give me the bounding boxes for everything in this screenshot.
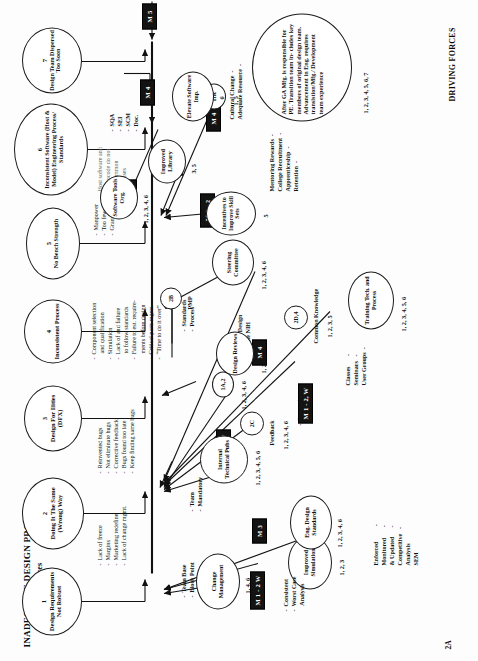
node-label: Training Tech. and Process: [364, 272, 377, 328]
driving-nums-training: 1, 2, 3, 4, 5, 6: [400, 296, 407, 331]
driving-node-eng-design-standards[interactable]: Eng. Design Standards: [290, 495, 332, 549]
node-label: Steering Committee: [226, 240, 239, 284]
annotation-sqa-sei-scm-doc: - SQA - SEI - SCM - Doc.: [108, 112, 140, 131]
annotation-team-base: - Team Base - Block Point: [180, 562, 196, 597]
driving-nums-design-reviews: 1, 2, 3, 6: [260, 351, 267, 373]
driving-node-change-management[interactable]: Change Management: [196, 553, 240, 609]
node-number: 4: [46, 329, 53, 332]
driving-bullets-hr: Mentoring Rewards - College Recruitment …: [268, 132, 300, 191]
driving-nums-elevate-software: 6: [218, 96, 225, 99]
node-label: Inconsistent Software (Host & Model) Eng…: [44, 104, 64, 194]
rotated-canvas: 2A INADEQUATE DESIGN PROCESS Restraining…: [0, 0, 478, 661]
node-label: Doing It The Same (Wrong) Way: [49, 478, 64, 548]
restraining-node-4[interactable]: 4 Inconsistent Process: [24, 299, 82, 363]
driving-bullets-ga-mfg-transition: Cultural Change - Adequate Resource -: [228, 63, 244, 119]
driving-node-incentives[interactable]: Incentives to Improve Skill Sets: [206, 191, 256, 235]
node-number: 7: [42, 58, 49, 61]
m-box-m5[interactable]: M 5: [142, 3, 157, 29]
m-box-m1-2w-b[interactable]: M 1 - 2, W: [298, 383, 313, 423]
driving-node-steering-committee[interactable]: Steering Committee: [212, 239, 254, 285]
node-label: 1A,2: [220, 378, 227, 390]
restraining-node-5[interactable]: 5 No Bench Strength: [26, 207, 80, 279]
node-label: 2C: [249, 419, 256, 426]
node-number: 2: [42, 511, 49, 514]
driving-bullets-2c: Feedback: [268, 420, 276, 445]
driving-bullets-2d4: Common Knowledge: [312, 288, 320, 343]
driving-bullets-2b: PMP: [186, 296, 194, 309]
driving-node-improved-library[interactable]: Improved Library: [148, 139, 186, 183]
driving-node-training[interactable]: Training Tech. and Process: [348, 271, 394, 329]
restraining-node-3[interactable]: 3 Design For Ilities (DFX): [24, 385, 82, 451]
restraining-node-2[interactable]: 2 Doing It The Same (Wrong) Way: [22, 477, 84, 549]
driving-node-design-reviews[interactable]: Design Reviews: [216, 331, 254, 375]
diagram-page: 2A INADEQUATE DESIGN PROCESS Restraining…: [0, 0, 478, 661]
node-label: Software Tools Org.: [112, 176, 125, 218]
node-number: 6: [37, 147, 44, 150]
driving-nums-eng-design-standards: 1, 2, 3, 4, 6: [336, 519, 343, 547]
node-label: Design For Ilities (DFX): [49, 386, 64, 450]
restraining-bullets-4: - Component selection and qualification …: [90, 300, 163, 359]
node-number: 3: [42, 416, 49, 419]
node-label: After GA Mfg. is responsible for PE. Tra…: [280, 14, 324, 120]
annotation-team-mandatory: - Team - Mandatory: [188, 476, 204, 511]
driving-bullets-eng-design-standards: Enforced - Monitored - & Updated - Compe…: [372, 524, 421, 565]
restraining-bullets-1: - Lack of freeze - Margins - Marketing r…: [96, 505, 128, 565]
node-label: 2B: [168, 295, 175, 302]
driving-nums-improved-library: 3, 5: [190, 164, 197, 173]
driving-nums-incentives: 5: [262, 214, 269, 217]
restraining-node-7[interactable]: 7 Design Team Dispersed Too Soon: [22, 27, 82, 93]
m-box-m4-d[interactable]: M 4: [140, 79, 155, 105]
node-label: Design Reviews: [232, 333, 239, 373]
node-label: Change Management: [211, 554, 224, 608]
node-label: Design Requirements Not Robust: [48, 568, 63, 634]
driving-node-software-tools-org[interactable]: Software Tools Org.: [100, 175, 138, 219]
driving-nums-software-tools-org: 1, 2, 3, 4, 6: [142, 195, 149, 223]
m-box-m3-b[interactable]: M 3: [252, 518, 267, 543]
m-box-m1-2w-a[interactable]: M 1 - 2 W: [250, 571, 265, 609]
driving-nums-improved-simulation: 1, 2, 3: [338, 559, 345, 575]
driving-nums-1a2: 1, 2, 3, 4, 6: [240, 381, 247, 409]
node-label: Elevate Software Imp.: [186, 72, 199, 120]
driving-nums-steering-committee: 1, 2, 3, 4, 6: [260, 261, 267, 289]
node-number: 5: [46, 241, 53, 244]
node-label: Eng. Design Standards: [304, 496, 317, 548]
driving-node-2d4[interactable]: 2D,4: [284, 305, 308, 329]
node-number: 1: [41, 599, 48, 602]
page-tag: 2A: [444, 640, 453, 649]
driving-nums-change-management: 1, 4, 6: [244, 577, 251, 593]
driving-nums-ga-mfg-transition: 1, 2, 3, 4, 5, 6, 7: [362, 72, 369, 113]
node-label: Incentives to Improve Skill Sets: [221, 192, 241, 234]
driving-node-ga-mfg-transition[interactable]: After GA Mfg. is responsible for PE. Tra…: [252, 13, 352, 121]
node-label: Internal Technical Pubs: [217, 436, 230, 482]
driving-node-internal-technical-pubs[interactable]: Internal Technical Pubs: [200, 435, 248, 483]
restraining-node-6[interactable]: 6 Inconsistent Software (Host & Model) E…: [14, 103, 88, 195]
driving-nums-internal-technical-pubs: 1, 2, 3, 4, 5, 6: [254, 450, 261, 485]
restraining-bullets-2: - Reinvented bugs - Not eliminate bugs -…: [96, 409, 136, 473]
node-label: Inconsistent Process: [53, 303, 60, 359]
driving-bullets-improved-simulation: - Consistent - Worst Case Analysis: [282, 576, 306, 611]
driving-nums-2c: 1, 2, 3, 4, 6: [282, 421, 289, 449]
node-label: 2D,4: [293, 311, 300, 323]
node-label: Improved Library: [160, 140, 173, 182]
driving-node-2b[interactable]: 2B: [160, 287, 182, 309]
restraining-node-1[interactable]: 1 Design Requirements Not Robust: [22, 567, 82, 635]
diagram-canvas: 2A INADEQUATE DESIGN PROCESS Restraining…: [0, 0, 478, 661]
driving-nums-2d4: 1, 2, 3, 5: [326, 315, 333, 337]
driving-node-2c[interactable]: 2C: [240, 411, 264, 435]
driving-node-elevate-software[interactable]: Elevate Software Imp.: [172, 71, 214, 121]
driving-bullets-training: Classes - Seminars - User Groups -: [344, 347, 368, 385]
driving-forces-label: DRIVING FORCES: [448, 27, 457, 101]
node-label: Design Team Dispersed Too Soon: [49, 28, 63, 92]
node-label: No Bench Strength: [53, 218, 60, 267]
